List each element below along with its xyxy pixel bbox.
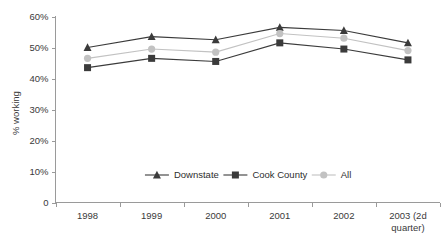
chart-legend: DownstateCook CountyAll [145,169,351,180]
y-tick-label: 50% [29,42,49,53]
legend-label-all: All [341,169,352,180]
data-point-cook-county [84,64,91,71]
line-chart-figure: % working 60%50%40%30%20%10%0 1998199920… [0,0,443,252]
legend-marker-cook-county [232,172,239,179]
data-point-all [212,49,219,56]
data-point-all [404,47,411,54]
series-lines-group [88,27,408,67]
data-point-cook-county [148,55,155,62]
x-tick-label: 2002 [333,210,354,221]
series-line-all [88,34,408,59]
legend-label-cook-county: Cook County [252,169,307,180]
x-axis-ticks: 199819992000200120022003 (2dquarter) [56,203,441,233]
x-tick-label: 2003 (2d [389,210,427,221]
x-tick-label: 2001 [269,210,290,221]
y-tick-label: 20% [29,135,49,146]
series-markers-group [84,23,412,71]
x-tick-label-line2: quarter) [391,222,424,233]
x-tick-label: 1999 [141,210,162,221]
data-point-all [84,55,91,62]
data-point-all [340,35,347,42]
y-axis-title: % working [10,91,21,135]
x-tick-label: 2000 [205,210,226,221]
chart-canvas: % working 60%50%40%30%20%10%0 1998199920… [0,0,443,252]
y-axis-ticks: 60%50%40%30%20%10%0 [29,11,55,208]
legend-marker-all [320,171,327,178]
x-tick-label: 1998 [77,210,98,221]
data-point-cook-county [212,58,219,65]
data-point-all [148,45,155,52]
y-tick-label: 60% [29,11,49,22]
data-point-all [276,30,283,37]
series-line-downstate [88,27,408,47]
series-line-cook-county [88,43,408,68]
y-tick-label: 0 [43,197,48,208]
data-point-cook-county [276,39,283,46]
y-tick-label: 40% [29,73,49,84]
data-point-cook-county [404,56,411,63]
y-tick-label: 30% [29,104,49,115]
legend-label-downstate: Downstate [174,169,219,180]
y-tick-label: 10% [29,166,49,177]
data-point-cook-county [340,46,347,53]
